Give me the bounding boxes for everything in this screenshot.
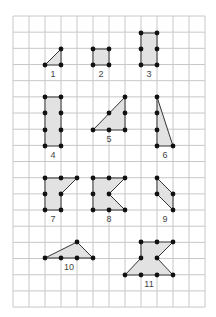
shape-label: 10 [64,262,74,272]
vertex-dot [139,256,144,261]
vertex-dot [59,63,64,68]
vertex-dot [107,63,112,68]
shape-6: 6 [155,95,176,160]
shape-polygon [93,49,109,65]
vertex-dot [43,128,48,133]
vertex-dot [43,95,48,100]
vertex-dot [59,95,64,100]
vertex-dot [91,192,96,197]
vertex-dot [155,31,160,36]
vertex-dot [139,63,144,68]
shape-label: 5 [106,134,111,144]
shape-10: 10 [43,240,96,272]
vertex-dot [59,47,64,52]
vertex-dot [123,111,128,116]
vertex-dot [59,208,64,213]
vertex-dot [43,144,48,149]
shape-label: 8 [106,214,111,224]
vertex-dot [171,240,176,245]
vertex-dot [107,128,112,133]
shape-polygon [45,49,61,65]
vertex-dot [107,208,112,213]
vertex-dot [43,192,48,197]
vertex-dot [43,256,48,261]
vertex-dot [171,144,176,149]
vertex-dot [139,273,144,278]
vertex-dot [155,144,160,149]
shape-label: 7 [50,214,55,224]
vertex-dot [139,47,144,52]
vertex-dot [91,47,96,52]
vertex-dot [107,47,112,52]
shape-label: 11 [144,279,153,289]
shape-4: 4 [43,95,64,160]
vertex-dot [123,95,128,100]
shape-9: 9 [155,176,176,224]
shape-1: 1 [43,47,64,79]
vertex-dot [155,63,160,68]
shape-label: 9 [162,214,167,224]
vertex-dot [59,128,64,133]
vertex-dot [123,208,128,213]
vertex-dot [171,208,176,213]
vertex-dot [91,256,96,261]
shape-8: 8 [91,176,128,224]
vertex-dot [155,47,160,52]
vertex-dot [75,176,80,181]
shape-label: 2 [98,69,103,79]
vertex-dot [107,176,112,181]
shape-label: 6 [162,150,167,160]
vertex-dot [59,176,64,181]
vertex-dot [43,208,48,213]
vertex-dot [43,111,48,116]
vertex-dot [123,176,128,181]
vertex-dot [155,128,160,133]
vertex-dot [75,256,80,261]
vertex-dot [107,111,112,116]
shape-label: 1 [50,69,55,79]
shape-3: 3 [139,31,160,79]
vertex-dot [171,192,176,197]
vertex-dot [91,128,96,133]
vertex-dot [91,208,96,213]
vertex-dot [59,111,64,116]
vertex-dot [75,240,80,245]
vertex-dot [91,63,96,68]
vertex-dot [139,31,144,36]
vertex-dot [155,95,160,100]
vertex-dot [139,240,144,245]
shape-label: 4 [50,150,55,160]
vertex-dot [59,256,64,261]
vertex-dot [59,144,64,149]
shape-11: 11 [123,240,176,289]
shape-label: 3 [146,69,151,79]
shape-polygon [45,242,93,258]
shape-2: 2 [91,47,112,79]
vertex-dot [155,256,160,261]
vertex-dot [171,273,176,278]
shape-polygon [45,97,61,146]
shape-polygon [157,97,173,146]
grid-canvas: 1234567891011 [0,0,216,317]
vertex-dot [155,192,160,197]
vertex-dot [123,128,128,133]
vertex-dot [155,111,160,116]
vertex-dot [155,273,160,278]
vertex-dot [155,240,160,245]
vertex-dot [123,273,128,278]
dot-grid-figure: 1234567891011 [0,0,216,317]
vertex-dot [59,192,64,197]
vertex-dot [91,176,96,181]
vertex-dot [107,192,112,197]
vertex-dot [43,63,48,68]
vertex-dot [155,176,160,181]
vertex-dot [43,176,48,181]
